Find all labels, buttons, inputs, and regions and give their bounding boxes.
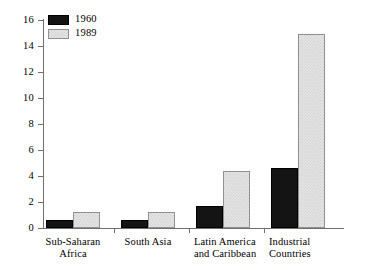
y-tick-12: [38, 72, 43, 73]
y-tick-10: [38, 98, 43, 99]
bar-1960-group-0: [46, 220, 73, 228]
y-tick-label-6: 6: [10, 145, 34, 156]
y-tick-label-0: 0: [10, 223, 34, 234]
x-category-label-1: South Asia: [107, 236, 189, 248]
bar-1960-group-3: [271, 168, 298, 228]
bar-1960-group-2: [196, 206, 223, 228]
y-tick-label-16: 16: [10, 15, 34, 26]
y-tick-label-10: 10: [10, 93, 34, 104]
plot-area: [44, 18, 344, 230]
x-category-label-3: Industrial Countries: [269, 236, 359, 259]
y-tick-label-14: 14: [10, 41, 34, 52]
y-tick-8: [38, 124, 43, 125]
bar-1960-group-1: [121, 220, 148, 228]
y-tick-label-4: 4: [10, 171, 34, 182]
y-tick-4: [38, 176, 43, 177]
y-tick-16: [38, 20, 43, 21]
x-category-label-0: Sub-Saharan Africa: [32, 236, 114, 259]
y-tick-0: [38, 228, 43, 229]
y-tick-6: [38, 150, 43, 151]
bar-1989-group-2: [223, 171, 250, 228]
y-tick-14: [38, 46, 43, 47]
bar-1989-group-1: [148, 212, 175, 228]
y-tick-label-8: 8: [10, 119, 34, 130]
y-tick-2: [38, 202, 43, 203]
y-tick-label-2: 2: [10, 197, 34, 208]
y-tick-label-12: 12: [10, 67, 34, 78]
bar-1989-group-3: [298, 34, 325, 228]
bar-1989-group-0: [73, 212, 100, 228]
bar-chart: 1960 1989 0246810121416 Sub-Saharan Afri…: [0, 0, 374, 270]
